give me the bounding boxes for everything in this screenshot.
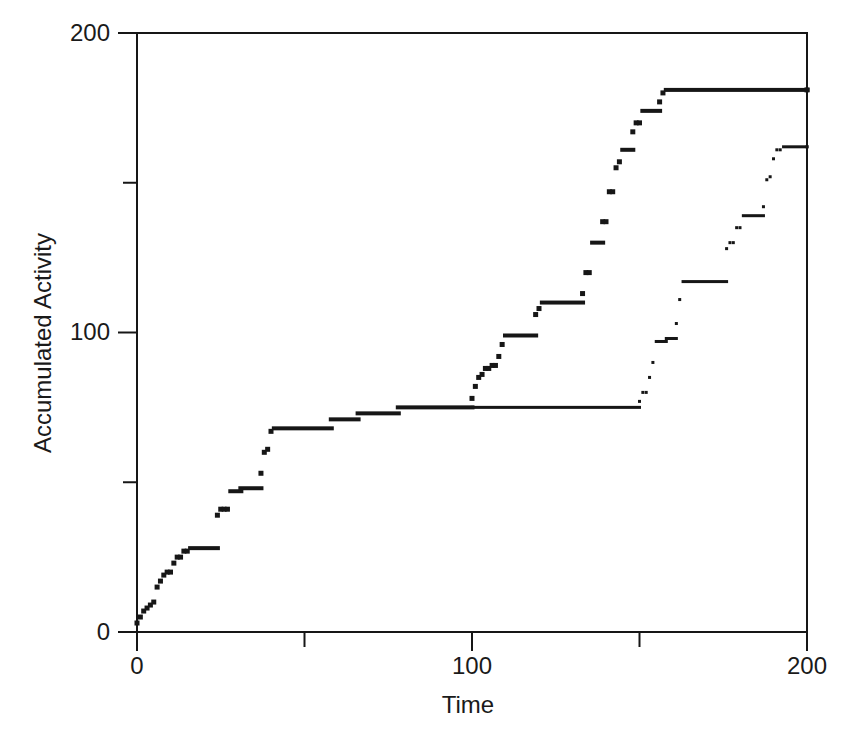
y-axis-title: Accumulated Activity — [29, 233, 57, 453]
x-axis-title: Time — [388, 691, 548, 719]
y-tick-label-200: 200 — [26, 18, 110, 48]
accumulated-activity-chart: 200 100 0 0 100 200 Time Accumulated Act… — [0, 0, 857, 745]
x-tick-label-0: 0 — [92, 651, 182, 681]
x-tick-label-200: 200 — [762, 651, 852, 681]
chart-canvas — [0, 0, 857, 745]
y-tick-label-0: 0 — [26, 617, 110, 647]
x-tick-label-100: 100 — [427, 651, 517, 681]
